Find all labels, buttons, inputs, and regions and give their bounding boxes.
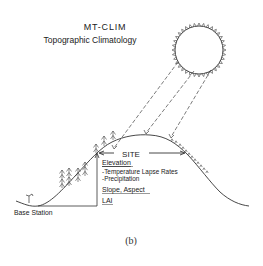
precipitation-label: -Precipitation <box>102 175 140 183</box>
base-station-label: Base Station <box>14 209 53 216</box>
sun-icon <box>172 23 226 77</box>
diagram-subtitle: Topographic Climatology <box>43 35 137 45</box>
site-label: SITE <box>122 150 140 159</box>
elevation-difference-arrow <box>38 153 99 206</box>
elevation-label: Elevation <box>102 159 131 166</box>
lai-label: LAI <box>102 197 113 204</box>
diagram-title: MT-CLIM <box>84 22 127 32</box>
mtclim-diagram: MT-CLIM Topographic Climatology SITE <box>0 0 263 266</box>
slope-aspect-label: Slope, Aspect <box>102 186 145 194</box>
figure-caption: (b) <box>125 235 137 247</box>
sun-rays <box>112 62 211 149</box>
site-extent-arrow <box>99 151 185 155</box>
weather-station-icon <box>26 194 33 203</box>
